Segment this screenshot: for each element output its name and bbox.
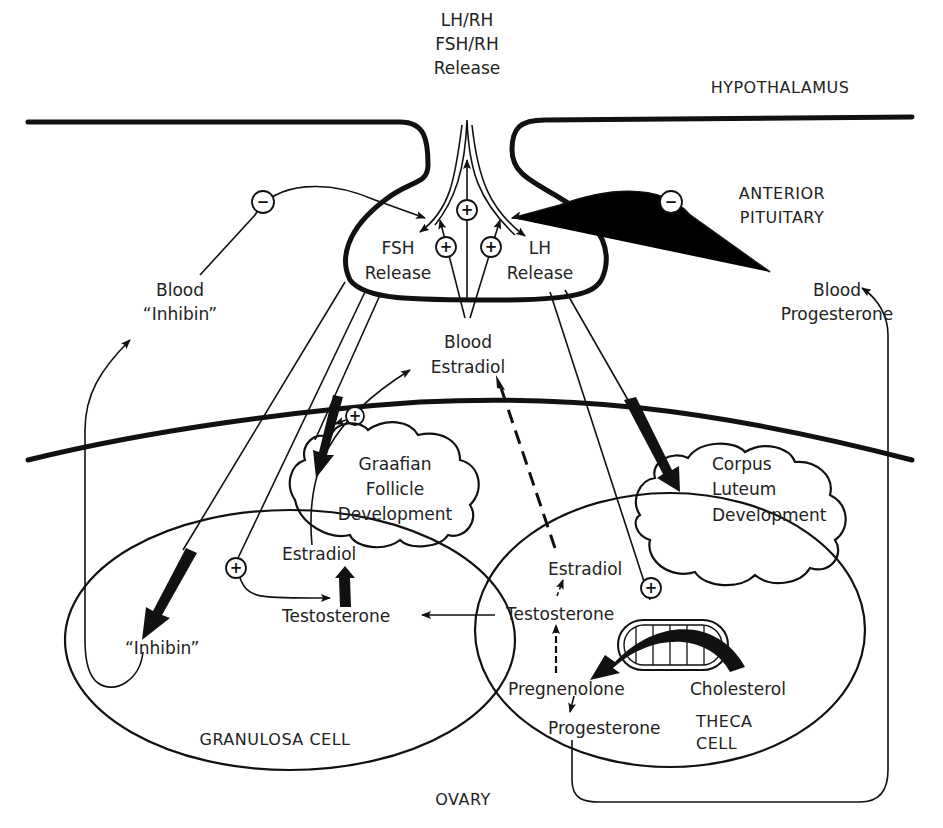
inhibin-loop [85, 340, 143, 687]
release-spike [435, 120, 515, 235]
hypothalamus-label: HYPOTHALAMUS [711, 78, 850, 97]
estradiol-to-lh-arrow [470, 220, 500, 318]
granulosa-testosterone-label: Testosterone [281, 606, 390, 626]
plus-sign-fsh: + [436, 237, 456, 257]
plus-sign-graafian: + [346, 407, 364, 425]
progesterone-feedback-line [512, 191, 770, 272]
blood-inhibin-label-2: “Inhibin” [143, 304, 217, 324]
svg-text:+: + [645, 579, 658, 597]
cholesterol-label: Cholesterol [690, 679, 786, 699]
plus-sign-top: + [457, 200, 477, 220]
corpus-label-2: Luteum [712, 479, 776, 499]
svg-text:+: + [230, 559, 243, 577]
lh-release-label: Release [507, 263, 573, 283]
graafian-label-3: Development [338, 504, 453, 524]
theca-estradiol-label: Estradiol [548, 559, 622, 579]
ovary-boundary [28, 400, 912, 460]
anterior-label: ANTERIOR [739, 184, 825, 203]
pituitary-label: PITUITARY [740, 208, 824, 227]
blood-inhibin-label-1: Blood [156, 280, 204, 300]
ovary-label: OVARY [435, 790, 491, 809]
granulosa-inhibin-label: “Inhibin” [125, 638, 199, 658]
svg-text:−: − [257, 193, 270, 211]
svg-text:+: + [461, 201, 474, 219]
fsh-rh-label: FSH/RH [435, 34, 498, 54]
svg-text:+: + [485, 238, 498, 256]
theca-progesterone-label: Progesterone [548, 718, 660, 738]
release-label: Release [434, 58, 500, 78]
lh-rh-label: LH/RH [441, 10, 494, 30]
minus-sign-inhibin: − [252, 191, 274, 213]
lh-label: LH [529, 238, 551, 258]
graafian-label-1: Graafian [359, 454, 432, 474]
blood-progesterone-label-1: Blood [813, 280, 861, 300]
minus-sign-progesterone: − [660, 191, 682, 213]
svg-text:+: + [440, 238, 453, 256]
plus-sign-granulosa: + [226, 558, 246, 578]
theca-label: THECA [695, 712, 753, 731]
pregnenolone-label: Pregnenolone [508, 679, 625, 699]
blood-estradiol-label-1: Blood [444, 332, 492, 352]
blood-progesterone-label-2: Progesterone [781, 304, 893, 324]
plus-sign-theca: + [641, 578, 661, 598]
corpus-label-3: Development [712, 505, 827, 525]
fsh-release-label: Release [365, 263, 431, 283]
ovarian-feedback-diagram: + + + − − + [0, 0, 943, 828]
theca-testosterone-label: Testosterone [505, 604, 614, 624]
svg-text:−: − [665, 193, 678, 211]
lh-to-corpus-line [565, 290, 628, 400]
blood-estradiol-label-2: Estradiol [431, 357, 505, 377]
testosterone-to-estradiol-thick-arrow [335, 566, 355, 607]
fsh-label: FSH [381, 238, 414, 258]
graafian-label-2: Follicle [366, 479, 424, 499]
granulosa-estradiol-label: Estradiol [282, 544, 356, 564]
plus-sign-lh: + [481, 237, 501, 257]
inhibin-feedback-line [200, 186, 425, 275]
granulosa-cell-label: GRANULOSA CELL [199, 730, 350, 749]
lh-release-arrow [472, 125, 525, 236]
estradiol-to-fsh-arrow [440, 220, 465, 318]
fsh-inhibin-thick-arrow [142, 548, 197, 640]
corpus-label-1: Corpus [712, 454, 772, 474]
lh-to-theca-line [550, 292, 650, 600]
cell-label: CELL [696, 734, 737, 753]
